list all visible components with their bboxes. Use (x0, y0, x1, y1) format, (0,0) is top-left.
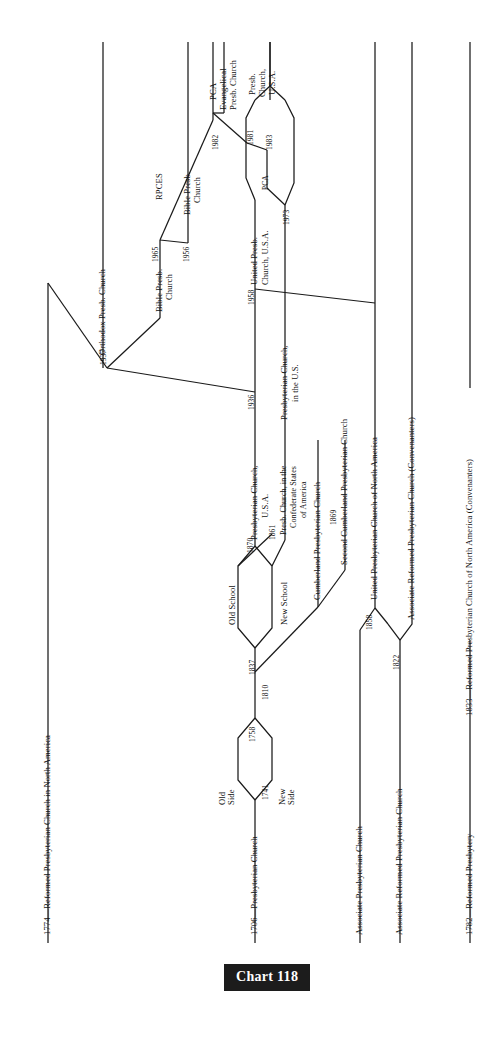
label-upcusa-line1: United Presb. (250, 237, 259, 285)
label-epc-line1: Evangelical (219, 68, 228, 110)
year-1936: 1936 (248, 395, 256, 410)
label-orthodox-presb-church: Orthodox Presb. Church (98, 269, 107, 355)
label-pcusa83-line2: Church, (258, 69, 267, 97)
label-rpcna-1833: 1833—Reformed Presbyterian Church of Nor… (465, 459, 474, 716)
label-pccsa-line2: Confederate States (290, 466, 298, 528)
line-newschool (255, 546, 272, 648)
label-united-presbyterian-church-of-north-america: United Presbyterian Church of North Amer… (370, 437, 379, 600)
year-1937: 1937 (100, 350, 108, 365)
label-pcusa83-line1: Presb. (248, 73, 257, 95)
line-1983-join (285, 100, 294, 205)
year-1958: 1958 (248, 290, 256, 305)
label-bible-presb-1937-line1: Bible Presb. (155, 269, 164, 312)
line-1822-node (388, 624, 400, 640)
chart-canvas: 1774—Reformed Presbyterian Church in Nor… (0, 0, 487, 1049)
line-oldschool (238, 546, 255, 648)
label-rpces: RPCES (155, 173, 164, 200)
label-bible-presb-1956-line2: Church (193, 177, 202, 203)
year-1822: 1822 (393, 655, 401, 670)
label-bible-presb-1937-line2: Church (165, 274, 174, 300)
line-1861-cross (272, 540, 285, 566)
year-1983: 1983 (266, 135, 274, 150)
label-pca-top: PCA (209, 83, 218, 100)
line-1981-join (246, 100, 255, 200)
label-epc-line2: Presb. Church (229, 60, 238, 110)
label-cumberland-presbyterian-church: Cumberland Presbyterian Church (313, 482, 322, 600)
year-1810: 1810 (262, 685, 270, 700)
label-pca-1973: PCA (262, 175, 270, 190)
year-1982: 1982 (212, 135, 220, 150)
year-1956: 1956 (183, 247, 191, 262)
label-arp-convenanters: Associate Reformed Presbyterian Church (… (407, 417, 416, 620)
year-1837: 1837 (249, 660, 257, 675)
line-1956-split (160, 240, 188, 243)
line-1958-merge (255, 289, 375, 303)
label-pcus-line1: Presbyterian Church, (280, 345, 289, 420)
year-1758: 1758 (249, 727, 257, 742)
line-1936-to-1937 (107, 368, 255, 392)
year-1861: 1861 (269, 525, 277, 540)
label-pcusa-line1: Presbyterian Church, (250, 465, 259, 540)
chart-number-badge: Chart 118 (224, 964, 310, 991)
label-pccsa-line1: Presb. Church, in the (280, 466, 288, 535)
label-upcusa-line2: Church, U.S.A. (261, 230, 270, 285)
label-old-side-2: Side (227, 789, 236, 805)
label-associate-reformed-presbyterian-church: Associate Reformed Presbyterian Church (395, 789, 404, 935)
label-associate-presbyterian-church: Associate Presbyterian Church (355, 826, 364, 935)
line-1973-split (267, 188, 285, 205)
label-reformed-presbytery-1782: 1782—Reformed Presbytery (465, 834, 474, 935)
label-old-school: Old School (228, 585, 237, 625)
label-rpcna-1774: 1774—Reformed Presbyterian Church in Nor… (43, 735, 52, 935)
label-pcusa-line2: U.S.A. (261, 494, 270, 518)
year-1981: 1981 (247, 130, 255, 145)
year-1741: 1741 (262, 785, 270, 800)
label-new-side-2: Side (287, 789, 296, 805)
label-pccsa-line3: of America (300, 481, 308, 518)
year-1870: 1870 (247, 538, 255, 553)
label-second-cumberland-presbyterian-church: Second Cumberland Presbyterian Church (340, 419, 349, 565)
line-1937-to-bpc (107, 318, 160, 368)
year-1869: 1869 (330, 510, 338, 525)
year-1965: 1965 (152, 247, 160, 262)
year-1973: 1973 (283, 210, 291, 225)
line-1822-to-1858 (375, 608, 388, 624)
year-1858: 1858 (366, 615, 374, 630)
label-bible-presb-1956-line1: Bible Presb. (183, 172, 192, 215)
label-pcus-line2: in the U.S. (291, 364, 300, 402)
label-new-school: New School (280, 582, 289, 625)
label-presb-1706: 1706—Presbyterian Church (250, 836, 259, 935)
label-pcusa83-line3: U.S.A. (268, 71, 277, 95)
